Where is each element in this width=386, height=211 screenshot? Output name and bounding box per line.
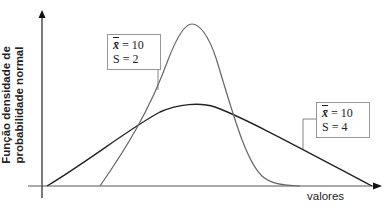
mean-value: = 10 (328, 106, 353, 120)
y-axis-arrow-icon (39, 10, 46, 18)
y-axis-label-line1: Função densidade de (0, 30, 13, 180)
legend-s2-std: S = 2 (113, 52, 155, 66)
y-axis-label: Função densidade de probabilidade normal (0, 30, 34, 180)
legend-s2-mean: x̄ = 10 (113, 38, 155, 52)
legend2-leader (303, 119, 316, 149)
legend-s4: x̄ = 10 S = 4 (316, 102, 370, 138)
legend-s4-mean: x̄ = 10 (322, 106, 364, 120)
mean-value: = 10 (119, 38, 144, 52)
legend-s4-std: S = 4 (322, 120, 364, 134)
x-axis-arrow-icon (373, 183, 382, 190)
x-axis-label: valores (307, 190, 344, 202)
legend-s2: x̄ = 10 S = 2 (107, 34, 161, 70)
y-axis-label-line2: probabilidade normal (13, 30, 26, 180)
